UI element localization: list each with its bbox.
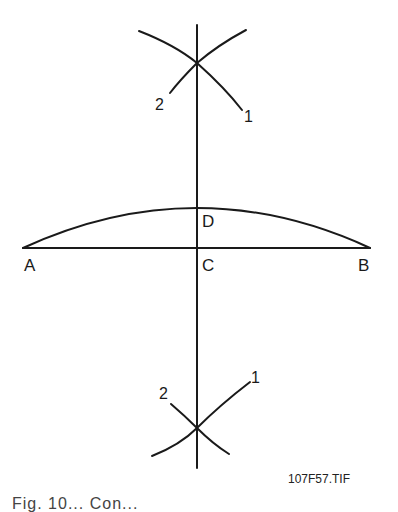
bottom-arc-label-2: 2 [159,386,168,402]
figure-caption-partial: Fig. 10... Con... [12,496,138,512]
point-label-a: A [24,257,35,274]
top-arc-1 [170,30,246,93]
point-label-c: C [202,257,214,274]
figure-id: 107F57.TIF [288,473,350,485]
point-label-b: B [358,257,369,274]
point-label-d: D [202,213,214,230]
top-arc-label-1: 1 [244,109,253,125]
top-arc-label-2: 2 [155,97,164,113]
bottom-arc-2 [171,404,229,454]
bottom-arc-label-1: 1 [251,370,260,386]
